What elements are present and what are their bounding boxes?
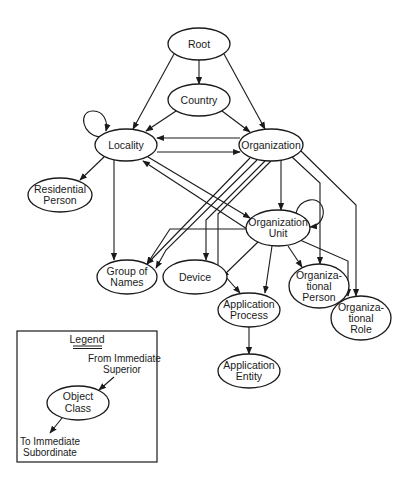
node-country: Country <box>168 84 230 116</box>
edge-organization-to-organizational-person <box>292 157 320 264</box>
edge-locality-to-residential-person <box>80 157 104 180</box>
node-organizational-role: Organiza-tionalRole <box>331 296 391 340</box>
node-residential-person: ResidentialPerson <box>28 178 92 212</box>
node-label: Role <box>350 323 372 335</box>
node-label: Root <box>188 38 210 50</box>
node-label: Device <box>179 271 211 283</box>
node-label: Person <box>302 291 335 303</box>
edge-organization-unit-to-group-of-names <box>147 229 246 264</box>
node-label: Unit <box>269 227 288 239</box>
node-locality: Locality <box>95 129 157 161</box>
node-organization-unit: OrganizationUnit <box>246 210 310 246</box>
edge-organization-unit-to-organizational-person <box>288 246 302 267</box>
node-group-of-names: Group ofNames <box>97 260 157 294</box>
legend-from-label: From Immediate <box>88 353 161 364</box>
legend-box: Legend From Immediate Superior Object Cl… <box>17 331 161 462</box>
legend-node-label: Class <box>65 402 91 414</box>
edge-root-to-locality <box>133 54 174 129</box>
node-device: Device <box>163 260 227 294</box>
node-label: Organization <box>241 139 301 151</box>
edge-country-to-locality <box>146 111 176 131</box>
node-label: Country <box>181 94 219 106</box>
legend-title: Legend <box>69 333 104 345</box>
object-class-diagram: RootCountryLocalityOrganizationResidenti… <box>0 0 396 485</box>
node-application-process: ApplicationProcess <box>218 293 280 327</box>
legend-to-label: Subordinate <box>23 447 77 458</box>
node-label: Locality <box>108 139 144 151</box>
edge-locality-to-locality <box>84 111 107 137</box>
legend-to-label: To Immediate <box>20 436 80 447</box>
legend-from-label: Superior <box>103 364 141 375</box>
node-label: Process <box>230 309 268 321</box>
node-label: Names <box>110 276 143 288</box>
node-label: Person <box>43 194 76 206</box>
edge-country-to-organization <box>222 111 250 132</box>
node-label: Entity <box>236 370 263 382</box>
node-root: Root <box>168 28 230 60</box>
node-application-entity: ApplicationEntity <box>218 354 280 388</box>
edge-organization-unit-to-application-process <box>265 246 272 293</box>
edge-locality-to-organization-unit <box>148 157 250 218</box>
node-organization: Organization <box>239 129 303 161</box>
legend-node-label: Object <box>63 390 93 402</box>
edge-organization-unit-to-device <box>222 242 258 277</box>
